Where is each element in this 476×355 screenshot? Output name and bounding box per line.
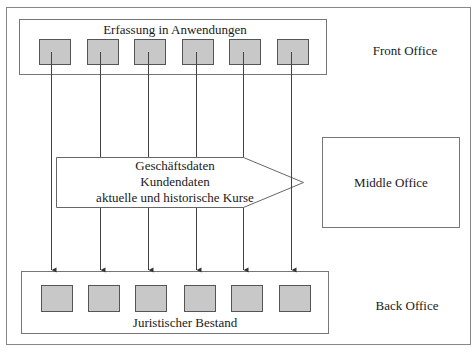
- data-arrow-line-3: aktuelle und historische Kurse: [80, 190, 270, 206]
- back-office-label: Back Office: [362, 298, 452, 314]
- front-office-label: Front Office: [360, 43, 450, 59]
- front-office-box-label: Erfassung in Anwendungen: [100, 22, 250, 38]
- data-arrow-line-2: Kundendaten: [80, 174, 270, 190]
- back-office-squares: [42, 286, 311, 312]
- middle-office-label: Middle Office: [334, 175, 448, 191]
- back-office-box-label: Juristischer Bestand: [110, 315, 260, 331]
- data-arrow-line-1: Geschäftsdaten: [80, 158, 270, 174]
- front-office-squares: [40, 40, 309, 65]
